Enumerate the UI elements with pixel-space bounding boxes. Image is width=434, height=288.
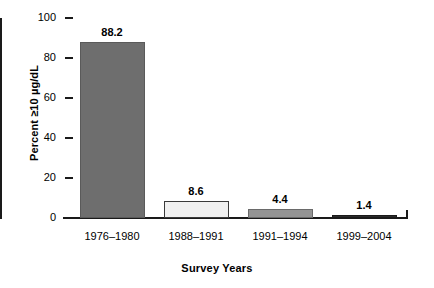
bar-value-label: 88.2 [80, 27, 145, 38]
y-axis-tick [65, 217, 73, 219]
bar-value-label: 8.6 [164, 186, 229, 197]
y-axis-tick [65, 17, 73, 19]
x-axis-title: Survey Years [0, 262, 434, 274]
bar [248, 209, 313, 218]
y-axis-tick [65, 97, 73, 99]
y-axis-tick-label: 40 [16, 132, 56, 143]
y-axis-tick [65, 57, 73, 59]
bar [164, 201, 229, 218]
y-axis-tick [65, 177, 73, 179]
y-axis-tick-label: 80 [16, 52, 56, 63]
bar-value-label: 4.4 [248, 194, 313, 205]
bar [332, 215, 397, 218]
y-axis-tick [65, 137, 73, 139]
x-axis-category-label: 1976–1980 [64, 230, 160, 242]
x-axis-category-label: 1991–1994 [232, 230, 328, 242]
y-axis-tick-label: 20 [16, 172, 56, 183]
y-axis-tick-label: 100 [16, 12, 56, 23]
x-axis-end-tick [406, 210, 408, 219]
bar [80, 42, 145, 218]
bar-value-label: 1.4 [332, 200, 397, 211]
y-axis-tick-label: 0 [16, 212, 56, 223]
y-axis-title: Percent ≥10 µg/dL [28, 13, 40, 213]
bar-chart: Percent ≥10 µg/dL 020406080100 88.21976–… [0, 0, 434, 288]
y-axis-tick-label: 60 [16, 92, 56, 103]
y-axis-line [0, 18, 2, 219]
x-axis-category-label: 1999–2004 [316, 230, 412, 242]
x-axis-category-label: 1988–1991 [148, 230, 244, 242]
